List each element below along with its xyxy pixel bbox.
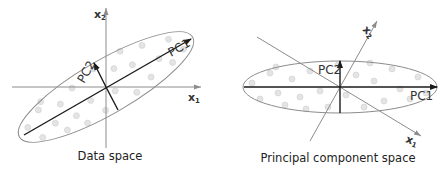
data-point — [289, 76, 295, 82]
data-point — [134, 89, 140, 95]
pc-space-caption: Principal component space — [260, 151, 415, 165]
data-point — [25, 125, 31, 131]
data-point — [381, 98, 387, 104]
pc-space-panel: PC1 PC2 x 2 x 1 Principal component spac… — [243, 21, 437, 165]
x1-axis-label: x 1 — [404, 133, 420, 150]
data-point — [297, 94, 303, 100]
data-point — [275, 90, 281, 96]
data-point — [111, 66, 117, 72]
pc2-label: PC2 — [318, 63, 341, 77]
data-point — [139, 42, 145, 48]
data-point — [69, 85, 75, 91]
data-point — [85, 120, 91, 126]
data-point — [361, 104, 367, 110]
data-point — [52, 120, 58, 126]
svg-text:2: 2 — [101, 14, 106, 22]
data-point — [129, 62, 135, 68]
data-point — [166, 36, 172, 42]
pca-diagram: PC1 PC2 x 1 x 2 Data space PC1 PC2 x 2 x… — [0, 0, 443, 171]
data-point — [64, 127, 70, 133]
data-space-caption: Data space — [78, 149, 143, 163]
x2-axis-label: x 2 — [94, 8, 106, 22]
data-point — [282, 102, 288, 108]
data-point — [371, 78, 377, 84]
data-point — [367, 60, 373, 66]
data-point — [353, 72, 359, 78]
data-point — [148, 74, 154, 80]
data-point — [343, 92, 349, 98]
data-point — [73, 113, 79, 119]
data-space-panel: PC1 PC2 x 1 x 2 Data space — [6, 8, 206, 163]
data-point — [35, 107, 41, 113]
data-point — [170, 59, 176, 65]
data-point — [57, 101, 63, 107]
pc1-label: PC1 — [410, 89, 433, 103]
data-point — [317, 88, 323, 94]
x1-axis-label: x 1 — [188, 91, 200, 105]
data-point — [40, 134, 46, 140]
data-point — [112, 88, 118, 94]
data-point — [415, 74, 421, 80]
svg-text:1: 1 — [195, 97, 200, 105]
data-point — [389, 66, 395, 72]
data-point — [38, 99, 44, 105]
data-point — [267, 70, 273, 76]
data-point — [249, 80, 255, 86]
